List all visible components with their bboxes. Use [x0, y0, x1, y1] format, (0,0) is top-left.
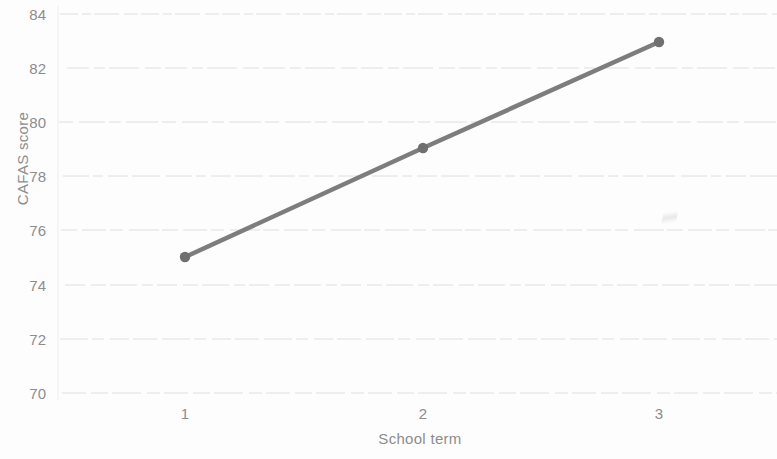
chart-figure: CAFAS score 84 82 80 78 76 74 72 70 1 2 … [0, 0, 777, 459]
y-tick-label-80: 80 [0, 115, 46, 130]
data-point-term-3 [654, 37, 664, 47]
y-tick-label-76: 76 [0, 223, 46, 238]
x-tick-label-1: 1 [165, 406, 205, 421]
y-tick-label-74: 74 [0, 278, 46, 293]
x-tick-label-2: 2 [403, 406, 443, 421]
gridlines [59, 14, 777, 393]
y-tick-label-82: 82 [0, 61, 46, 76]
y-tick-label-72: 72 [0, 332, 46, 347]
x-tick-label-3: 3 [639, 406, 679, 421]
y-tick-label-78: 78 [0, 169, 46, 184]
y-tick-label-84: 84 [0, 7, 46, 22]
x-axis-title: School term [330, 430, 510, 447]
y-tick-label-70: 70 [0, 386, 46, 401]
data-point-term-2 [418, 143, 428, 153]
plot-area [57, 0, 777, 404]
data-point-term-1 [180, 252, 190, 262]
line-chart-svg [57, 0, 777, 404]
